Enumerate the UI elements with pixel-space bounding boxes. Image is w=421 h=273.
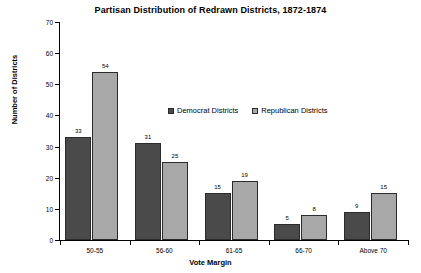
x-axis-tick xyxy=(60,241,61,245)
legend-label-democrat: Democrat Districts xyxy=(177,106,238,115)
bar-value-label: 8 xyxy=(312,206,315,212)
x-axis-title: Vote Margin xyxy=(0,258,421,267)
y-axis-tick-label: 40 xyxy=(30,112,53,119)
bar-value-label: 9 xyxy=(355,203,358,209)
bar-republican xyxy=(301,215,327,240)
legend-label-republican: Republican Districts xyxy=(261,106,327,115)
y-axis-title: Number of Districts xyxy=(10,30,19,150)
legend-entry-republican: Republican Districts xyxy=(252,106,327,115)
x-axis-category-label: 56-60 xyxy=(156,247,173,254)
legend-swatch-democrat-icon xyxy=(168,108,174,114)
chart-legend: Democrat Districts Republican Districts xyxy=(168,106,328,115)
bar-value-label: 25 xyxy=(172,153,179,159)
x-axis-category-label: 66-70 xyxy=(295,247,312,254)
legend-swatch-republican-icon xyxy=(252,108,258,114)
y-axis-tick-label: 50 xyxy=(30,81,53,88)
legend-entry-democrat: Democrat Districts xyxy=(168,106,238,115)
bar-democrat xyxy=(135,143,161,240)
x-axis-tick xyxy=(408,241,409,245)
bar-republican xyxy=(162,162,188,240)
x-axis-line xyxy=(59,240,409,241)
y-axis-tick-label: 0 xyxy=(30,237,53,244)
bar-value-label: 19 xyxy=(241,172,248,178)
y-axis-tick-label: 10 xyxy=(30,205,53,212)
bar-value-label: 15 xyxy=(380,184,387,190)
x-axis-category-label: Above 70 xyxy=(359,247,386,254)
bar-republican xyxy=(371,193,397,240)
chart-title: Partisan Distribution of Redrawn Distric… xyxy=(0,5,421,15)
bar-democrat xyxy=(205,193,231,240)
bar-value-label: 15 xyxy=(214,184,221,190)
bar-democrat xyxy=(344,212,370,240)
y-axis-tick-label: 70 xyxy=(30,19,53,26)
bar-chart: Partisan Distribution of Redrawn Distric… xyxy=(0,0,421,273)
y-axis-tick-label: 20 xyxy=(30,174,53,181)
y-axis-tick-label: 60 xyxy=(30,50,53,57)
x-axis-tick xyxy=(199,241,200,245)
x-axis-category-label: 61-65 xyxy=(226,247,243,254)
x-axis-tick xyxy=(130,241,131,245)
plot-area: 33543125151958915 xyxy=(60,22,408,240)
bar-republican xyxy=(92,72,118,240)
bar-value-label: 33 xyxy=(75,128,82,134)
x-axis-tick xyxy=(269,241,270,245)
bar-democrat xyxy=(65,137,91,240)
bar-value-label: 5 xyxy=(285,215,288,221)
y-axis-tick-label: 30 xyxy=(30,143,53,150)
bar-republican xyxy=(232,181,258,240)
bar-democrat xyxy=(274,224,300,240)
bar-value-label: 31 xyxy=(145,134,152,140)
x-axis-tick xyxy=(338,241,339,245)
bar-value-label: 54 xyxy=(102,63,109,69)
x-axis-category-label: 50-55 xyxy=(86,247,103,254)
